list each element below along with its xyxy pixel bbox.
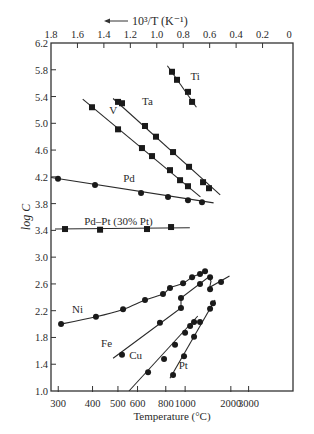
top-tick-label: 0.4 (230, 29, 244, 40)
chart: 1.01.41.82.22.63.03.43.84.24.65.05.45.86… (0, 0, 314, 434)
data-point-circle (199, 199, 205, 205)
top-tick-label: 1.8 (44, 29, 57, 40)
data-point-circle (178, 295, 184, 301)
y-tick-label: 5.0 (35, 118, 48, 129)
bottom-tick-label: 500 (110, 398, 126, 409)
data-point-circle (218, 279, 224, 285)
bottom-tick-label: 300 (50, 398, 66, 409)
data-point-circle (197, 319, 203, 325)
series-label: Pd–Pt (30% Pt) (84, 215, 153, 228)
series-v: V (83, 99, 201, 197)
data-point-circle (207, 274, 213, 280)
top-tick-label: 0 (286, 29, 291, 40)
data-point-square (174, 77, 180, 83)
top-tick-label: 1.4 (97, 29, 111, 40)
data-point-square (206, 185, 212, 191)
data-point-circle (142, 297, 148, 303)
data-point-square (119, 100, 125, 106)
data-series: TiTaVPdPd–Pt (30% Pt)NiFeCuPt (51, 66, 230, 391)
y-tick-label: 2.2 (35, 306, 48, 317)
data-point-circle (180, 280, 186, 286)
data-point-square (170, 149, 176, 155)
data-point-circle (172, 342, 178, 348)
data-point-circle (197, 281, 203, 287)
data-point-circle (167, 285, 173, 291)
y-tick-label: 1.8 (35, 332, 48, 343)
data-point-circle (182, 330, 188, 336)
series-label: Ti (190, 70, 199, 82)
bottom-tick-label: 1000 (175, 398, 196, 409)
series-label: V (109, 104, 117, 116)
data-point-circle (160, 291, 166, 297)
data-point-square (89, 104, 95, 110)
y-tick-label: 4.6 (35, 145, 48, 156)
data-point-square (115, 126, 121, 132)
bottom-tick-label: 800 (158, 398, 174, 409)
data-point-circle (178, 305, 184, 311)
series-label: Pd (123, 172, 135, 184)
series-label: Ta (142, 95, 153, 107)
data-point-square (169, 69, 175, 75)
series-label: Ni (72, 303, 83, 315)
series-label: Fe (101, 337, 112, 349)
arrow-left-icon (104, 19, 110, 24)
series-fe: Fe (101, 274, 229, 358)
bottom-x-axis: 300400500600800100020003000 (50, 386, 259, 409)
data-point-circle (92, 182, 98, 188)
data-point-circle (58, 321, 64, 327)
data-point-square (153, 134, 159, 140)
data-point-circle (189, 274, 195, 280)
y-tick-label: 3.4 (35, 225, 49, 236)
y-axis-label: log C (19, 203, 33, 230)
y-tick-label: 1.0 (35, 386, 48, 397)
y-tick-label: 1.4 (35, 359, 49, 370)
data-point-circle (120, 306, 126, 312)
series-cu: Cu (129, 316, 198, 391)
data-point-circle (55, 176, 61, 182)
top-tick-label: 1.0 (150, 29, 163, 40)
bottom-tick-label: 400 (85, 398, 101, 409)
data-point-circle (161, 356, 167, 362)
x-axis-label: Temperature (°C) (133, 410, 211, 423)
data-point-square (97, 227, 103, 233)
top-tick-label: 0.2 (256, 29, 269, 40)
data-point-circle (207, 306, 213, 312)
data-point-square (168, 224, 174, 230)
data-point-square (185, 89, 191, 95)
y-tick-label: 3.0 (35, 252, 48, 263)
data-point-circle (191, 319, 197, 325)
top-axis-title: 10³/T (K⁻¹) (104, 14, 188, 28)
data-point-circle (202, 268, 208, 274)
bottom-tick-label: 3000 (238, 398, 259, 409)
data-point-square (149, 153, 155, 159)
series-label: Pt (179, 359, 188, 371)
data-point-circle (185, 197, 191, 203)
top-tick-label: 1.2 (124, 29, 137, 40)
data-point-circle (138, 190, 144, 196)
y-tick-label: 5.8 (35, 65, 48, 76)
data-point-square (142, 123, 148, 129)
data-point-square (189, 99, 195, 105)
data-point-square (177, 177, 183, 183)
y-tick-label: 2.6 (35, 279, 48, 290)
series-pd-pt-30-pt-: Pd–Pt (30% Pt) (55, 215, 190, 233)
data-point-circle (157, 320, 163, 326)
top-tick-label: 0.8 (177, 29, 190, 40)
y-tick-label: 4.2 (35, 172, 48, 183)
data-point-square (62, 226, 68, 232)
top-x-axis: 1.81.61.41.21.00.80.60.40.20 (44, 29, 291, 48)
data-point-square (185, 183, 191, 189)
top-axis-label: 10³/T (K⁻¹) (132, 14, 188, 28)
data-point-circle (165, 194, 171, 200)
data-point-circle (207, 286, 213, 292)
data-point-square (186, 164, 192, 170)
data-point-circle (93, 314, 99, 320)
data-point-circle (210, 300, 216, 306)
top-tick-label: 1.6 (71, 29, 84, 40)
data-point-square (200, 179, 206, 185)
data-point-circle (170, 372, 176, 378)
series-ti: Ti (167, 66, 199, 107)
series-label: Cu (129, 349, 142, 361)
series-ni: Ni (58, 268, 208, 327)
data-point-circle (145, 369, 151, 375)
